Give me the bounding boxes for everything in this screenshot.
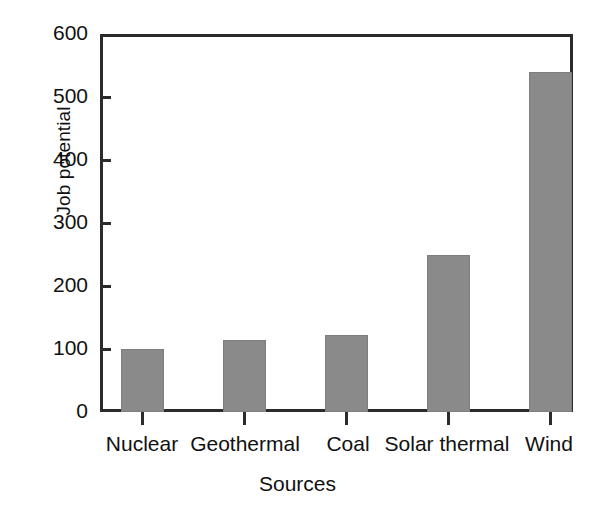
x-axis-label-coal: Coal [326, 432, 369, 456]
y-axis-tick-label-400: 400 [53, 147, 88, 171]
y-axis-tick-label-200: 200 [53, 273, 88, 297]
bar-solar-thermal [427, 255, 470, 413]
bars-layer [100, 34, 573, 412]
x-axis-tick-mark-wind [549, 412, 552, 425]
bar-wind [529, 72, 572, 412]
x-axis-label-geothermal: Geothermal [190, 432, 300, 456]
x-axis-tick-mark-nuclear [141, 412, 144, 425]
x-axis-tick-mark-solar-thermal [447, 412, 450, 425]
y-axis-tick-label-0: 0 [76, 399, 88, 423]
y-axis-tick-label-600: 600 [53, 21, 88, 45]
y-axis-tick-label-300: 300 [53, 210, 88, 234]
bar-coal [325, 335, 368, 412]
x-axis-title: Sources [0, 472, 595, 496]
x-axis-label-solar-thermal: Solar thermal [385, 432, 510, 456]
x-axis-label-nuclear: Nuclear [106, 432, 178, 456]
y-axis-tick-label-100: 100 [53, 336, 88, 360]
y-axis-tick-label-500: 500 [53, 84, 88, 108]
x-axis-label-wind: Wind [525, 432, 573, 456]
x-axis-tick-mark-coal [345, 412, 348, 425]
bar-nuclear [121, 349, 164, 412]
x-axis-tick-mark-geothermal [243, 412, 246, 425]
bar-geothermal [223, 340, 266, 413]
bar-chart: Job potential 600 500 400 300 200 100 0 [0, 0, 595, 514]
